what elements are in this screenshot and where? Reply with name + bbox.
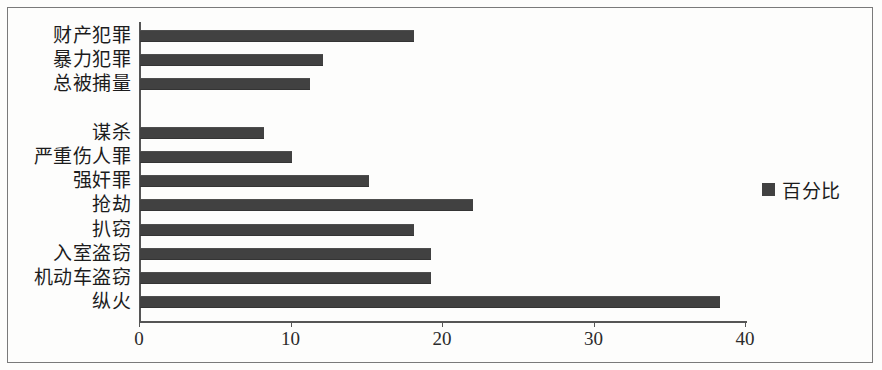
y-axis-tick-label: 抢劫 xyxy=(92,195,131,214)
bar xyxy=(140,151,292,163)
bar xyxy=(140,248,431,260)
bar xyxy=(140,30,414,42)
bar xyxy=(140,224,414,236)
x-axis-tick-mark xyxy=(291,322,292,327)
legend-label: 百分比 xyxy=(782,176,841,203)
y-axis-tick-label: 入室盗窃 xyxy=(53,244,131,263)
x-axis-line xyxy=(139,321,747,323)
x-axis-tick-label: 10 xyxy=(281,328,300,350)
bar xyxy=(140,54,323,66)
bar xyxy=(140,175,369,187)
bar xyxy=(140,296,720,308)
y-axis-tick-label: 强奸罪 xyxy=(73,171,132,190)
x-axis-tick-mark xyxy=(594,322,595,327)
x-axis-tick-mark xyxy=(139,322,140,327)
x-axis-tick-mark xyxy=(442,322,443,327)
y-axis-tick-label: 总被捕量 xyxy=(53,74,131,93)
bar xyxy=(140,199,473,211)
bar xyxy=(140,78,310,90)
y-axis-tick-label: 谋杀 xyxy=(92,123,131,142)
legend-swatch-icon xyxy=(762,183,775,196)
bar xyxy=(140,127,264,139)
x-axis-tick-mark xyxy=(745,322,746,327)
y-axis-tick-label: 扒窃 xyxy=(92,220,131,239)
y-axis-tick-label: 纵火 xyxy=(92,292,131,311)
x-axis-tick-label: 20 xyxy=(433,328,452,350)
x-axis-tick-label: 30 xyxy=(584,328,603,350)
y-axis-tick-label: 严重伤人罪 xyxy=(34,147,132,166)
y-axis-tick-label: 机动车盗窃 xyxy=(34,268,132,287)
y-axis-tick-label: 暴力犯罪 xyxy=(53,50,131,69)
y-axis-category-labels: 财产犯罪暴力犯罪总被捕量谋杀严重伤人罪强奸罪抢劫扒窃入室盗窃机动车盗窃纵火 xyxy=(0,22,131,322)
x-axis-tick-label: 0 xyxy=(134,328,144,350)
plot-area: 010203040 xyxy=(139,22,746,322)
x-axis-tick-label: 40 xyxy=(736,328,755,350)
y-axis-tick-label: 财产犯罪 xyxy=(53,26,131,45)
bar xyxy=(140,272,431,284)
chart-legend: 百分比 xyxy=(762,176,841,203)
bar-chart-figure: 财产犯罪暴力犯罪总被捕量谋杀严重伤人罪强奸罪抢劫扒窃入室盗窃机动车盗窃纵火 01… xyxy=(0,0,882,370)
